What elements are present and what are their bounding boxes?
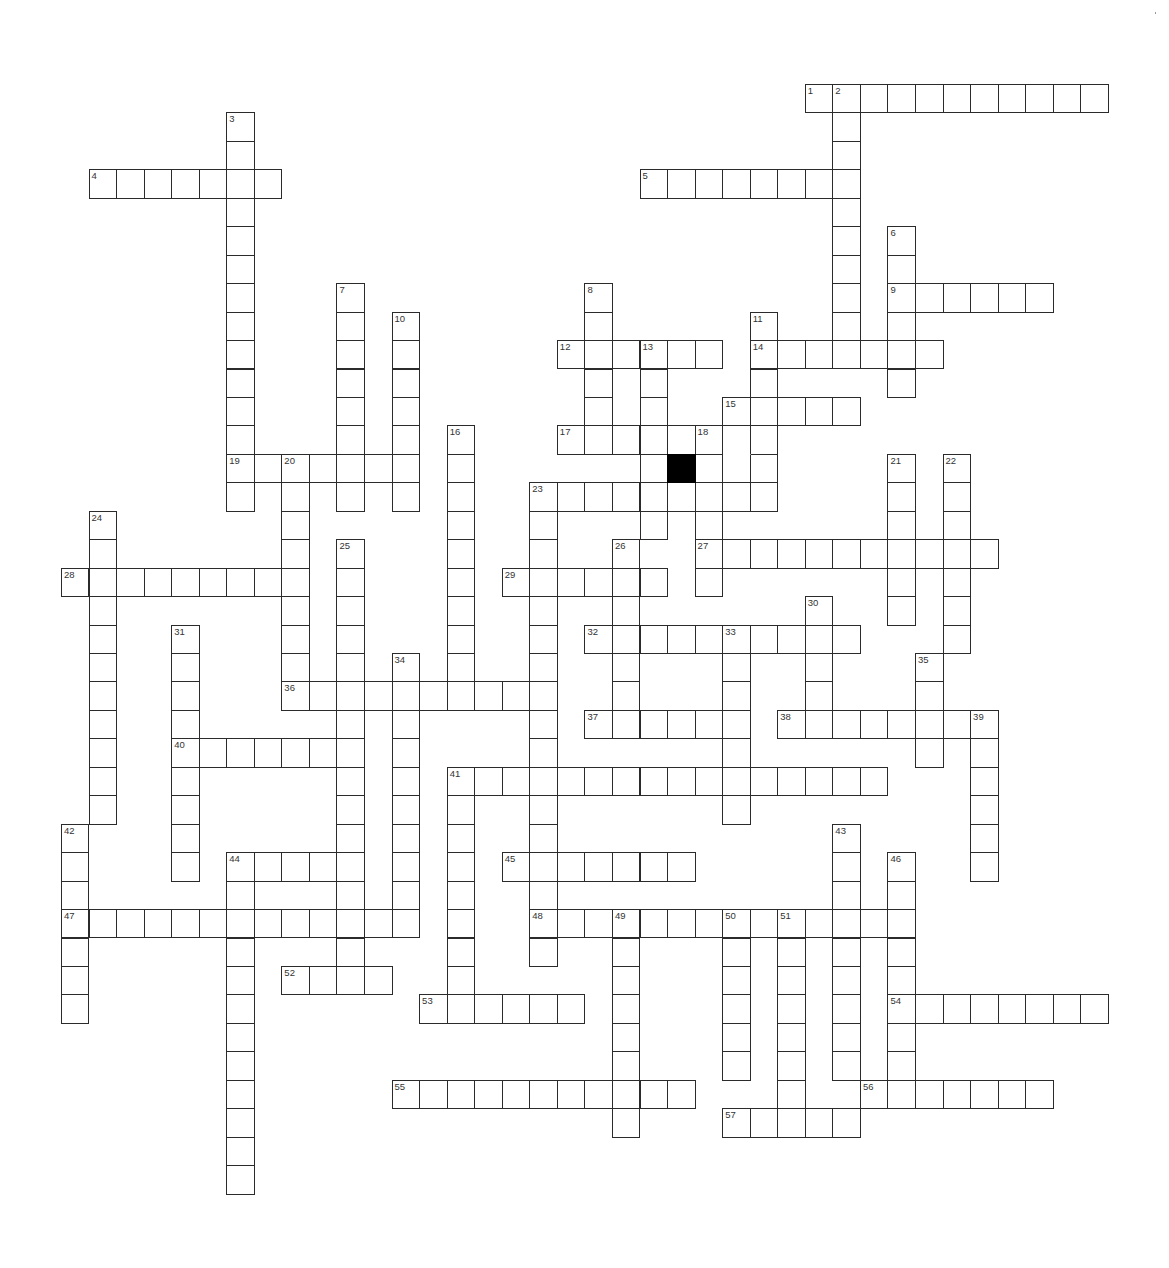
cell-57[interactable]: 57 — [722, 1108, 751, 1137]
cell[interactable] — [447, 938, 476, 967]
cell[interactable] — [336, 852, 365, 881]
cell[interactable] — [970, 283, 999, 312]
cell[interactable] — [887, 909, 916, 938]
cell[interactable] — [887, 1080, 916, 1109]
cell[interactable] — [970, 539, 999, 568]
cell[interactable] — [915, 994, 944, 1023]
cell[interactable] — [447, 454, 476, 483]
cell[interactable] — [502, 1080, 531, 1109]
cell[interactable] — [144, 909, 173, 938]
cell[interactable] — [887, 710, 916, 739]
cell[interactable] — [336, 795, 365, 824]
cell[interactable] — [722, 454, 751, 483]
cell-34[interactable]: 34 — [392, 653, 421, 682]
cell[interactable] — [502, 681, 531, 710]
cell[interactable] — [171, 169, 200, 198]
cell-7[interactable]: 7 — [336, 283, 365, 312]
cell[interactable] — [832, 938, 861, 967]
cell[interactable] — [447, 824, 476, 853]
cell[interactable] — [557, 1080, 586, 1109]
cell[interactable] — [529, 653, 558, 682]
cell[interactable] — [584, 852, 613, 881]
cell-12[interactable]: 12 — [557, 340, 586, 369]
cell[interactable] — [970, 767, 999, 796]
cell[interactable] — [529, 795, 558, 824]
cell[interactable] — [336, 738, 365, 767]
cell[interactable] — [750, 425, 779, 454]
cell-47[interactable]: 47 — [61, 909, 90, 938]
cell[interactable] — [832, 198, 861, 227]
cell[interactable] — [722, 710, 751, 739]
cell-5[interactable]: 5 — [640, 169, 669, 198]
cell[interactable] — [1025, 994, 1054, 1023]
cell[interactable] — [860, 909, 889, 938]
cell-41[interactable]: 41 — [447, 767, 476, 796]
cell[interactable] — [612, 482, 641, 511]
cell[interactable] — [447, 625, 476, 654]
cell[interactable] — [309, 681, 338, 710]
cell[interactable] — [887, 84, 916, 113]
cell[interactable] — [199, 568, 228, 597]
cell[interactable] — [89, 795, 118, 824]
cell-38[interactable]: 38 — [777, 710, 806, 739]
cell[interactable] — [447, 596, 476, 625]
cell[interactable] — [695, 568, 724, 597]
cell[interactable] — [474, 767, 503, 796]
cell[interactable] — [584, 767, 613, 796]
cell[interactable] — [612, 710, 641, 739]
cell[interactable] — [640, 425, 669, 454]
cell[interactable] — [336, 767, 365, 796]
cell[interactable] — [612, 681, 641, 710]
cell-22[interactable]: 22 — [943, 454, 972, 483]
cell-15[interactable]: 15 — [722, 397, 751, 426]
cell[interactable] — [722, 966, 751, 995]
cell[interactable] — [336, 568, 365, 597]
cell[interactable] — [89, 738, 118, 767]
cell[interactable] — [640, 369, 669, 398]
cell[interactable] — [584, 482, 613, 511]
cell-17[interactable]: 17 — [557, 425, 586, 454]
cell[interactable] — [887, 568, 916, 597]
cell[interactable] — [226, 1108, 255, 1137]
cell[interactable] — [226, 369, 255, 398]
cell[interactable] — [61, 994, 90, 1023]
cell[interactable] — [584, 340, 613, 369]
cell[interactable] — [832, 283, 861, 312]
cell-1[interactable]: 1 — [805, 84, 834, 113]
cell[interactable] — [309, 454, 338, 483]
cell[interactable] — [171, 795, 200, 824]
cell[interactable] — [392, 795, 421, 824]
cell[interactable] — [777, 1108, 806, 1137]
cell[interactable] — [557, 852, 586, 881]
cell[interactable] — [832, 1051, 861, 1080]
cell[interactable] — [309, 738, 338, 767]
cell[interactable] — [722, 425, 751, 454]
cell[interactable] — [309, 966, 338, 995]
cell[interactable] — [640, 852, 669, 881]
cell[interactable] — [557, 767, 586, 796]
cell[interactable] — [777, 340, 806, 369]
cell[interactable] — [805, 625, 834, 654]
cell[interactable] — [640, 482, 669, 511]
cell[interactable] — [61, 966, 90, 995]
cell[interactable] — [392, 681, 421, 710]
cell[interactable] — [750, 767, 779, 796]
cell[interactable] — [309, 852, 338, 881]
cell[interactable] — [722, 539, 751, 568]
cell[interactable] — [943, 539, 972, 568]
cell[interactable] — [254, 852, 283, 881]
cell[interactable] — [667, 340, 696, 369]
cell[interactable] — [887, 255, 916, 284]
cell[interactable] — [226, 994, 255, 1023]
cell[interactable] — [557, 482, 586, 511]
cell-21[interactable]: 21 — [887, 454, 916, 483]
cell-10[interactable]: 10 — [392, 312, 421, 341]
cell[interactable] — [832, 1023, 861, 1052]
cell[interactable] — [226, 169, 255, 198]
cell[interactable] — [226, 738, 255, 767]
cell[interactable] — [777, 397, 806, 426]
cell-3[interactable]: 3 — [226, 112, 255, 141]
cell[interactable] — [887, 340, 916, 369]
cell[interactable] — [116, 169, 145, 198]
cell[interactable] — [447, 511, 476, 540]
